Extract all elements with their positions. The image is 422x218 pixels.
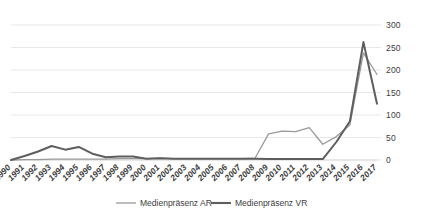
y-tick-label: 100 <box>386 110 401 120</box>
series-line-ar <box>11 53 377 160</box>
gridlines <box>11 25 381 160</box>
chart-legend: Medienpräsenz ARMedienpräsenz VR <box>116 198 307 208</box>
y-tick-label: 150 <box>386 88 401 98</box>
y-tick-label: 0 <box>386 155 391 165</box>
x-axis-tick-labels: 1990199119921993199419951996199719981999… <box>0 161 379 183</box>
legend-label: Medienpräsenz AR <box>140 198 212 208</box>
y-tick-label: 200 <box>386 65 401 75</box>
y-axis-tick-labels: 050100150200250300 <box>386 20 401 165</box>
y-tick-label: 250 <box>386 43 401 53</box>
series-line-vr <box>11 42 377 160</box>
line-chart: 050100150200250300 199019911992199319941… <box>0 0 422 218</box>
x-tick-label: 2017 <box>357 161 379 183</box>
chart-container: 050100150200250300 199019911992199319941… <box>0 0 422 218</box>
y-tick-label: 50 <box>386 133 396 143</box>
series-lines <box>11 42 377 160</box>
legend-label: Medienpräsenz VR <box>235 198 307 208</box>
y-tick-label: 300 <box>386 20 401 30</box>
